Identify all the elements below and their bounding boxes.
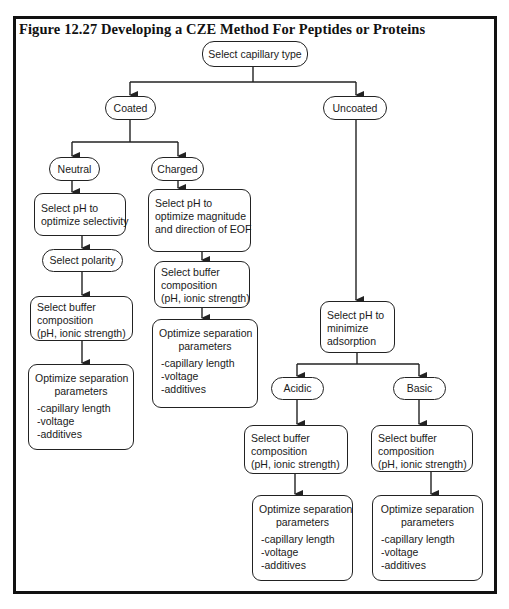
node-basic-optimize: Optimize separation parameters -capillar… bbox=[372, 495, 483, 581]
node-charged-select-ph: Select pH to optimize magnitude and dire… bbox=[148, 189, 251, 252]
node-label: Select capillary type bbox=[208, 48, 301, 61]
node-line: (pH, ionic strength) bbox=[378, 458, 466, 471]
node-line: optimize selectivity bbox=[41, 215, 119, 228]
node-charged: Charged bbox=[151, 157, 204, 181]
node-line: Select buffer bbox=[37, 301, 126, 314]
node-line: and direction of EOF bbox=[155, 223, 244, 236]
node-line: Select pH to bbox=[155, 197, 244, 210]
node-neutral-optimize: Optimize separation parameters -capillar… bbox=[28, 364, 134, 450]
param-additives: -additives bbox=[381, 559, 476, 572]
node-line: (pH, ionic strength) bbox=[251, 458, 341, 471]
node-label: Basic bbox=[407, 382, 433, 395]
node-heading: Optimize separation bbox=[35, 372, 127, 385]
node-neutral: Neutral bbox=[49, 157, 100, 181]
param-capillary-length: -capillary length bbox=[261, 533, 346, 546]
node-charged-optimize: Optimize separation parameters -capillar… bbox=[152, 319, 258, 408]
node-heading: Optimize separation bbox=[379, 503, 476, 516]
param-capillary-length: -capillary length bbox=[37, 402, 127, 415]
node-acidic: Acidic bbox=[271, 377, 324, 400]
node-neutral-select-buffer: Select buffer composition (pH, ionic str… bbox=[30, 296, 133, 341]
node-heading: parameters bbox=[379, 516, 476, 529]
param-voltage: -voltage bbox=[37, 415, 127, 428]
node-uncoated: Uncoated bbox=[323, 96, 387, 120]
node-line: optimize magnitude bbox=[155, 210, 244, 223]
param-voltage: -voltage bbox=[261, 546, 346, 559]
param-capillary-length: -capillary length bbox=[381, 533, 476, 546]
node-line: composition bbox=[161, 279, 243, 292]
node-label: Charged bbox=[157, 163, 197, 176]
node-select-polarity: Select polarity bbox=[42, 249, 123, 272]
node-line: Select pH to bbox=[327, 309, 388, 322]
node-line: composition bbox=[378, 445, 466, 458]
node-label: Neutral bbox=[58, 163, 92, 176]
param-additives: -additives bbox=[161, 383, 251, 396]
node-heading: Optimize separation bbox=[159, 327, 251, 340]
node-heading: parameters bbox=[35, 385, 127, 398]
node-label: Select polarity bbox=[50, 254, 116, 267]
node-line: minimize bbox=[327, 322, 388, 335]
param-voltage: -voltage bbox=[381, 546, 476, 559]
node-acidic-select-buffer: Select buffer composition (pH, ionic str… bbox=[244, 425, 348, 474]
node-label: Acidic bbox=[283, 382, 311, 395]
node-line: Select buffer bbox=[251, 432, 341, 445]
node-label: Uncoated bbox=[333, 102, 378, 115]
node-heading: parameters bbox=[259, 516, 346, 529]
param-additives: -additives bbox=[37, 428, 127, 441]
node-heading: parameters bbox=[159, 340, 251, 353]
param-capillary-length: -capillary length bbox=[161, 357, 251, 370]
node-heading: Optimize separation bbox=[259, 503, 346, 516]
node-basic-select-buffer: Select buffer composition (pH, ionic str… bbox=[371, 425, 473, 472]
node-line: Select pH to bbox=[41, 202, 119, 215]
node-line: composition bbox=[251, 445, 341, 458]
node-line: adsorption bbox=[327, 335, 388, 348]
node-charged-select-buffer: Select buffer composition (pH, ionic str… bbox=[154, 261, 250, 308]
param-additives: -additives bbox=[261, 559, 346, 572]
node-basic: Basic bbox=[393, 377, 446, 400]
node-acidic-optimize: Optimize separation parameters -capillar… bbox=[252, 495, 353, 581]
node-line: (pH, ionic strength) bbox=[37, 327, 126, 340]
param-voltage: -voltage bbox=[161, 370, 251, 383]
node-select-capillary-type: Select capillary type bbox=[202, 41, 308, 67]
node-coated: Coated bbox=[105, 96, 156, 120]
node-neutral-select-ph: Select pH to optimize selectivity bbox=[34, 193, 126, 236]
node-line: (pH, ionic strength) bbox=[161, 292, 243, 305]
node-line: Select buffer bbox=[161, 266, 243, 279]
node-label: Coated bbox=[114, 102, 148, 115]
node-line: composition bbox=[37, 314, 126, 327]
node-line: Select buffer bbox=[378, 432, 466, 445]
node-uncoated-select-ph: Select pH to minimize adsorption bbox=[320, 301, 395, 353]
